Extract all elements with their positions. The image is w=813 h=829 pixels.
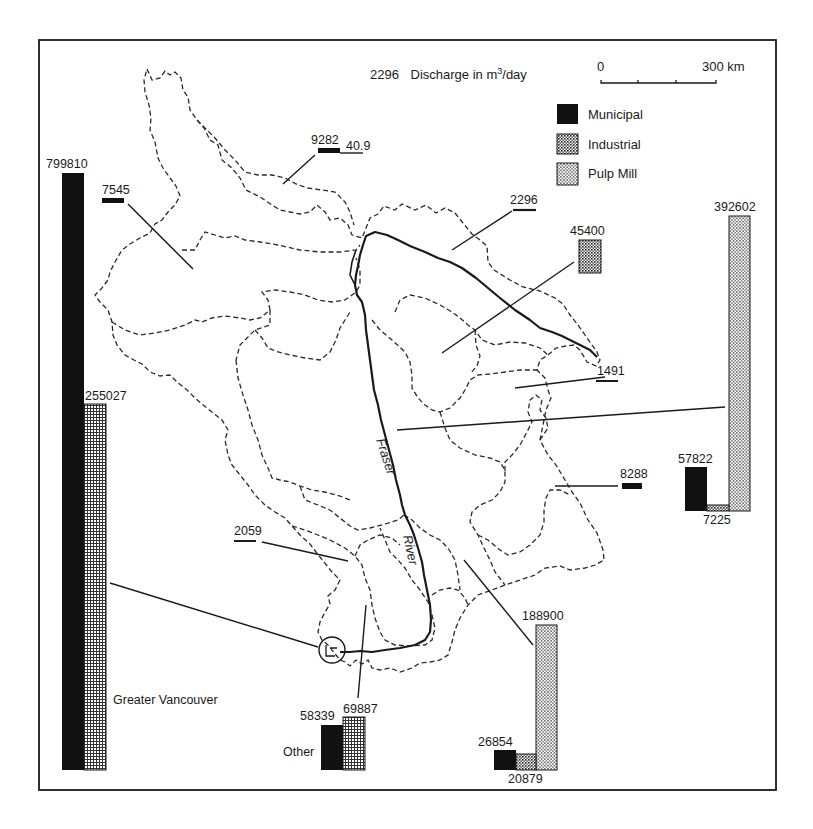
value-cariboo-municipal: 57822: [678, 452, 713, 466]
bars-north: 9282 40.9: [311, 133, 370, 153]
basin-boundaries: [95, 69, 604, 672]
value-cariboo-pulpmill: 392602: [714, 200, 756, 214]
bars-cariboo: 392602 57822 7225: [678, 200, 756, 527]
scale-end-label: 300 km: [702, 59, 745, 74]
value-north-municipal: 9282: [311, 133, 339, 147]
legend-swatch-industrial: [557, 134, 578, 154]
value-thompson-south-pulpmill: 188900: [522, 609, 564, 623]
value-cariboo-industrial: 7225: [703, 513, 731, 527]
bar-gv-municipal: [62, 173, 84, 770]
legend-sample-value: 2296: [370, 67, 399, 82]
svg-text:2296 Discharge in m3/day: 2296 Discharge in m3/day: [370, 66, 527, 82]
bars-thompson-east: 8288: [620, 467, 648, 489]
value-north-industrial: 40.9: [346, 139, 370, 153]
bars-quesnel: 1491: [596, 364, 625, 381]
river-label-river: River: [400, 534, 421, 567]
value-lower-fraser-west: 2059: [234, 524, 262, 538]
value-gv-municipal: 799810: [46, 157, 88, 171]
value-quesnel: 1491: [597, 364, 625, 378]
bars-northeast: 2296: [510, 193, 538, 210]
value-thompson-south-industrial: 20879: [508, 772, 543, 786]
value-northeast: 2296: [510, 193, 538, 207]
bar-gv-industrial: [84, 404, 106, 770]
river-label-fraser: Fraser: [373, 436, 399, 477]
map-frame: [39, 40, 776, 790]
value-other-municipal: 58339: [300, 709, 335, 723]
bars-lower-fraser-west: 2059: [234, 524, 262, 541]
value-gv-industrial: 255027: [85, 389, 127, 403]
scale-bar: 0 300 km: [597, 59, 745, 83]
bars-other: 58339 69887 Other: [283, 702, 378, 770]
legend-unit-suffix: /day: [502, 67, 527, 82]
legend-label-municipal: Municipal: [588, 107, 643, 122]
value-thompson-east: 8288: [620, 467, 648, 481]
bars-prince-george: 45400: [570, 224, 605, 273]
legend-label-industrial: Industrial: [588, 137, 641, 152]
legend-label-pulpmill: Pulp Mill: [588, 166, 637, 181]
label-other: Other: [283, 745, 314, 759]
value-northwest: 7545: [102, 183, 130, 197]
discharge-unit-legend: 2296 Discharge in m3/day: [370, 66, 527, 82]
value-other-industrial: 69887: [343, 702, 378, 716]
value-prince-george: 45400: [570, 224, 605, 238]
bars-greater-vancouver: 799810 255027 Greater Vancouver: [46, 157, 218, 770]
label-greater-vancouver: Greater Vancouver: [113, 693, 218, 707]
legend-unit-label: Discharge in m: [411, 67, 498, 82]
legend-swatch-pulpmill: [557, 163, 578, 185]
pattern-legend: Municipal Industrial Pulp Mill: [557, 104, 643, 185]
fraser-basin-discharge-map: 2296 Discharge in m3/day 0 300 km Munici…: [0, 0, 813, 829]
bars-thompson-south: 188900 26854 20879: [478, 609, 564, 786]
value-thompson-south-municipal: 26854: [478, 735, 513, 749]
legend-swatch-municipal: [557, 104, 578, 124]
scale-start-label: 0: [597, 59, 604, 74]
bars-northwest: 7545: [102, 183, 130, 203]
